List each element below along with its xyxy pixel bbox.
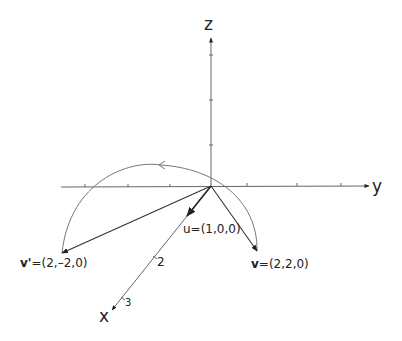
vector-u-name: u [183, 222, 191, 236]
z-axis [209, 38, 213, 186]
vector-v-label: v=(2,2,0) [251, 257, 309, 271]
z-axis-label: z [204, 14, 213, 34]
x-tick-label-3: 3 [125, 297, 131, 308]
vector-v-prime-coords: =(2,–2,0) [32, 256, 88, 270]
vector-v [211, 186, 257, 251]
y-axis-label: y [372, 176, 382, 196]
vector-v-prime-name: v' [20, 256, 32, 270]
rotation-diagram: z y x 2 3 u=(1,0,0) v=(2,2,0) v'=(2,–2,0… [0, 0, 402, 341]
x-tick-label-2: 2 [157, 255, 165, 269]
vector-u-coords: =(1,0,0) [191, 222, 241, 236]
vector-u [187, 186, 211, 216]
vector-v-name: v [251, 257, 259, 271]
vector-u-label: u=(1,0,0) [183, 222, 241, 236]
vector-v-prime-label: v'=(2,–2,0) [20, 256, 87, 270]
vector-v-coords: =(2,2,0) [259, 257, 309, 271]
x-axis-label: x [99, 306, 109, 326]
y-axis [61, 183, 369, 187]
